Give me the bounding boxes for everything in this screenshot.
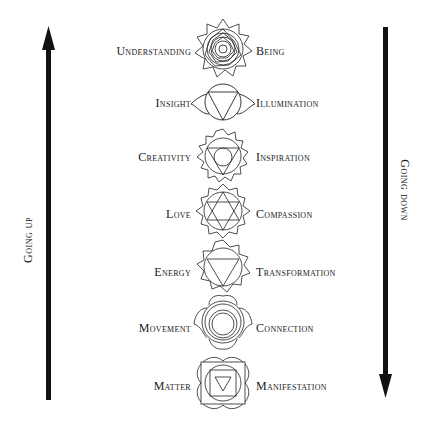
up-arrow [42,26,55,400]
going-down-label: Going down [398,159,412,221]
going-up-label: Going up [21,217,35,263]
down-arrow [379,27,392,398]
crown-chakra-icon [193,18,253,80]
left-label-matter: Matter [154,379,191,393]
left-label-love: Love [166,207,191,221]
right-label-illumination: Illumination [256,96,319,110]
right-label-being: Being [256,44,285,58]
right-label-manifestation: Manifestation [256,379,327,393]
left-label-understanding: Understanding [116,44,191,58]
right-label-transformation: Transformation [256,265,336,279]
right-label-compassion: Compassion [256,207,313,221]
left-label-creativity: Creativity [138,150,191,164]
root-chakra-icon [193,354,253,412]
right-label-inspiration: Inspiration [256,150,310,164]
heart-chakra-icon [195,183,251,239]
throat-chakra-icon [195,128,251,184]
left-label-movement: Movement [139,321,191,335]
left-label-insight: Insight [156,96,191,110]
right-label-connection: Connection [256,321,314,335]
solar-plexus-chakra-icon [195,239,251,295]
left-label-energy: Energy [154,265,191,279]
sacral-chakra-icon [193,292,253,352]
third-eye-chakra-icon [190,79,256,125]
